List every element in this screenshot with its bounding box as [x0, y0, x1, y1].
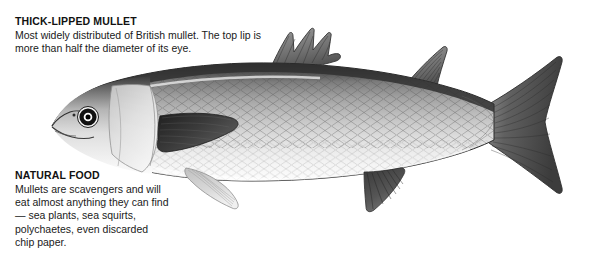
- species-note-line: more than half the diameter of its eye.: [15, 42, 261, 55]
- natural-food-note-line: chip paper.: [15, 236, 169, 249]
- eye: [78, 107, 99, 128]
- caudal-fin: [489, 57, 562, 194]
- natural-food-note-line: polychaetes, even discarded: [15, 223, 169, 236]
- species-note-heading: THICK-LIPPED MULLET: [15, 15, 261, 28]
- natural-food-note: NATURAL FOOD Mullets are scavengers and …: [15, 169, 169, 249]
- natural-food-note-heading: NATURAL FOOD: [15, 169, 169, 182]
- natural-food-note-line: Mullets are scavengers and will: [15, 183, 169, 196]
- species-note-line: Most widely distributed of British mulle…: [15, 29, 261, 42]
- species-note: THICK-LIPPED MULLET Most widely distribu…: [15, 15, 261, 55]
- species-note-body: Most widely distributed of British mulle…: [15, 29, 261, 55]
- fish-head: [52, 76, 158, 174]
- illustration-plate: THICK-LIPPED MULLET Most widely distribu…: [0, 0, 598, 261]
- natural-food-note-line: — sea plants, sea squirts,: [15, 209, 169, 222]
- natural-food-note-line: eat almost anything they can find: [15, 196, 169, 209]
- anal-fin: [364, 168, 405, 212]
- nostril: [73, 114, 76, 117]
- natural-food-note-body: Mullets are scavengers and will eat almo…: [15, 183, 169, 249]
